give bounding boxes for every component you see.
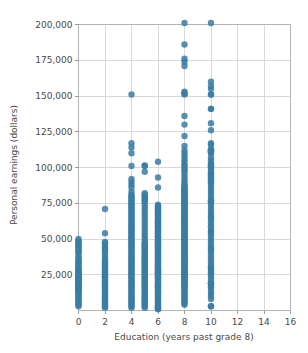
scatter-point — [181, 143, 187, 149]
scatter-point — [181, 181, 187, 187]
scatter-point — [155, 245, 161, 251]
x-tick-label: 6 — [155, 317, 161, 327]
scatter-point — [208, 280, 214, 286]
y-tick-label: 75,000 — [41, 198, 73, 208]
scatter-point — [155, 303, 161, 309]
x-axis-title: Education (years past grade 8) — [114, 332, 253, 342]
scatter-point — [102, 206, 108, 212]
scatter-point — [208, 229, 214, 235]
scatter-point — [142, 169, 148, 175]
scatter-point — [208, 147, 214, 153]
scatter-point — [208, 127, 214, 133]
scatter-point — [75, 236, 81, 242]
scatter-point — [181, 89, 187, 95]
scatter-point — [155, 267, 161, 273]
y-tick-label: 100,000 — [35, 163, 72, 173]
chart-canvas: 25,00050,00075,000100,000125,000150,0001… — [0, 0, 308, 353]
scatter-point — [181, 121, 187, 127]
y-tick-label: 25,000 — [41, 270, 73, 280]
y-tick-label: 50,000 — [41, 234, 73, 244]
x-tick-label: 12 — [232, 317, 243, 327]
x-tick-label: 8 — [182, 317, 188, 327]
scatter-point — [208, 154, 214, 160]
scatter-point — [208, 246, 214, 252]
scatter-point — [155, 159, 161, 165]
scatter-point — [208, 106, 214, 112]
scatter-point — [102, 230, 108, 236]
figure-background — [0, 0, 308, 353]
scatter-point — [142, 190, 148, 196]
scatter-point — [208, 214, 214, 220]
scatter-point — [155, 203, 161, 209]
scatter-point — [155, 279, 161, 285]
x-tick-label: 2 — [102, 317, 108, 327]
x-tick-label: 0 — [76, 317, 82, 327]
y-tick-label: 125,000 — [35, 127, 72, 137]
scatter-point — [181, 133, 187, 139]
scatter-point — [208, 140, 214, 146]
scatter-point — [155, 184, 161, 190]
scatter-point — [208, 120, 214, 126]
scatter-point — [208, 20, 214, 26]
y-tick-label: 150,000 — [35, 91, 72, 101]
x-tick-label: 4 — [129, 317, 135, 327]
scatter-point — [128, 150, 134, 156]
scatter-point — [208, 91, 214, 97]
scatter-point — [208, 197, 214, 203]
scatter-point — [208, 303, 214, 309]
x-tick-label: 10 — [205, 317, 217, 327]
scatter-point — [155, 174, 161, 180]
y-axis-title: Personal earnings (dollars) — [9, 105, 19, 225]
scatter-point — [128, 176, 134, 182]
x-tick-label: 14 — [258, 317, 270, 327]
scatter-point — [142, 162, 148, 168]
scatter-point — [208, 163, 214, 169]
scatter-point — [102, 239, 108, 245]
y-tick-label: 200,000 — [35, 20, 72, 30]
x-tick-label: 16 — [285, 317, 297, 327]
scatter-point — [128, 163, 134, 169]
scatter-point — [128, 140, 134, 146]
scatter-point — [128, 91, 134, 97]
scatter-point — [181, 113, 187, 119]
scatter-point — [181, 56, 187, 62]
scatter-point — [181, 20, 187, 26]
scatter-point — [208, 264, 214, 270]
y-tick-label: 175,000 — [35, 55, 72, 65]
scatter-point — [208, 79, 214, 85]
scatter-point — [181, 41, 187, 47]
scatter-chart-figure: 25,00050,00075,000100,000125,000150,0001… — [0, 0, 308, 353]
